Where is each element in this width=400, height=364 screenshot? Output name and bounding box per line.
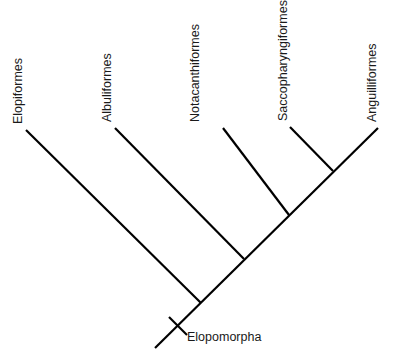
taxon-label-albuliformes: Albuliformes (100, 53, 114, 122)
branch-elopiformes (26, 130, 201, 303)
taxon-label-notacanthiformes: Notacanthiformes (188, 24, 202, 122)
branch-albuliformes (115, 128, 244, 259)
branch-notacanthiformes (223, 128, 289, 215)
main-spine-branch (155, 128, 378, 348)
clade-label-elopomorpha: Elopomorpha (187, 330, 261, 344)
branch-saccopharyngiformes (290, 127, 333, 171)
taxon-label-saccopharyngiformes: Saccopharyngiformes (276, 0, 290, 121)
cladogram-figure: ElopiformesAlbuliformesNotacanthiformesS… (0, 0, 400, 364)
taxon-label-elopiformes: Elopiformes (11, 58, 25, 124)
taxon-label-anguilliformes: Anguilliformes (365, 43, 379, 122)
cladogram-svg: ElopiformesAlbuliformesNotacanthiformesS… (0, 0, 400, 364)
